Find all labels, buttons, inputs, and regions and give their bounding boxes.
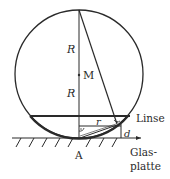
newton-rings-diagram: R M R r d Linse A Glas- platte bbox=[0, 0, 170, 179]
label-small-r: r bbox=[96, 116, 102, 127]
label-a: A bbox=[74, 149, 83, 161]
center-point-m bbox=[78, 74, 80, 76]
label-platte: platte bbox=[130, 160, 161, 172]
label-m: M bbox=[83, 69, 94, 82]
right-angle-mark-a bbox=[79, 128, 84, 131]
label-r-lower: R bbox=[66, 87, 75, 100]
right-angle-dot-a bbox=[80, 128, 81, 129]
diagonal-line bbox=[79, 10, 117, 124]
label-d: d bbox=[124, 128, 130, 139]
right-angle-dot-b bbox=[116, 121, 117, 122]
label-r-upper: R bbox=[66, 43, 75, 56]
arrow-head-icon bbox=[136, 136, 141, 140]
label-glas: Glas- bbox=[130, 146, 157, 158]
hatching bbox=[16, 138, 117, 147]
label-linse: Linse bbox=[136, 112, 165, 124]
